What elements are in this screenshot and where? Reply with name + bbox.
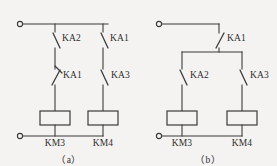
coil-km4 [227, 111, 257, 125]
label-coil-km4: KM4 [93, 139, 113, 149]
contact-ka1-feed-blade [216, 33, 224, 48]
label-contact-ka1-feed: KA1 [227, 34, 246, 44]
terminal-bottom-left [17, 133, 22, 138]
contact-ka3-blade [101, 70, 108, 85]
label-contact-ka3: KA3 [111, 71, 130, 81]
panel-a-schematic [0, 0, 138, 166]
circuit-panel-b: KA1 KA2 KA3 KM3 KM4 （b） [139, 0, 277, 166]
label-contact-ka3: KA3 [250, 71, 269, 81]
label-contact-ka1-right: KA1 [110, 34, 129, 44]
contact-ka1-right-blade [101, 33, 108, 48]
coil-km3 [40, 111, 70, 125]
figure-root: KA2 KA1 KA1 KA3 KM3 KM4 （a） [0, 0, 277, 166]
label-coil-km4: KM4 [232, 139, 252, 149]
caption-a: （a） [0, 152, 138, 166]
coil-km4 [88, 111, 118, 125]
caption-b: （b） [139, 152, 277, 166]
terminal-top-left [156, 21, 161, 26]
label-coil-km3: KM3 [45, 139, 65, 149]
contact-ka2-blade [53, 33, 60, 48]
contact-ka2-blade [180, 70, 187, 85]
contact-ka1-left-blade [52, 70, 60, 85]
panel-b-schematic [139, 0, 277, 166]
terminal-top-left [17, 21, 22, 26]
circuit-panel-a: KA2 KA1 KA1 KA3 KM3 KM4 （a） [0, 0, 138, 166]
label-contact-ka2: KA2 [190, 71, 209, 81]
coil-km3 [167, 111, 197, 125]
label-coil-km3: KM3 [172, 139, 192, 149]
terminal-bottom-left [156, 133, 161, 138]
label-contact-ka1-left: KA1 [63, 71, 82, 81]
contact-ka3-blade [240, 70, 247, 85]
label-contact-ka2: KA2 [62, 34, 81, 44]
